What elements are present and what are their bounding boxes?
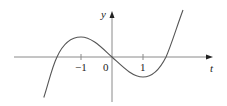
y-axis-arrow-icon xyxy=(110,11,115,18)
t-axis-label: t xyxy=(210,62,214,74)
cubic-graph: −1 0 1 y t xyxy=(0,0,227,106)
tick-label-neg-one: −1 xyxy=(75,61,87,73)
tick-label-zero: 0 xyxy=(103,61,109,73)
t-axis-arrow-icon xyxy=(206,55,213,60)
cubic-curve xyxy=(44,10,183,98)
tick-label-one: 1 xyxy=(140,61,146,73)
y-axis-label: y xyxy=(100,8,106,20)
